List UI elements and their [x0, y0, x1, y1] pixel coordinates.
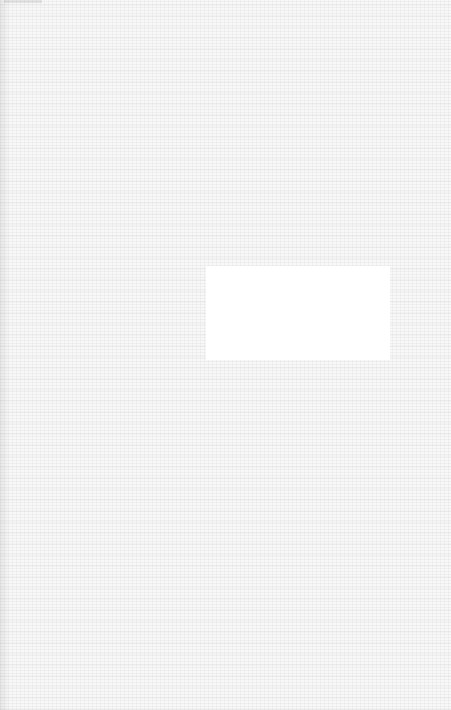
left-edge-shadow [0, 0, 10, 710]
blank-textured-page [0, 0, 451, 710]
top-left-smudge [4, 0, 42, 3]
blank-white-panel [206, 266, 390, 360]
